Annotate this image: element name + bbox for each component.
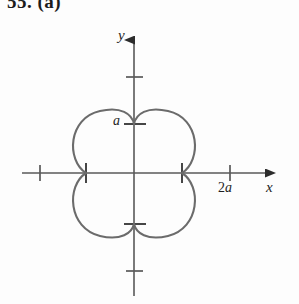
rose-curve-plot: [0, 0, 299, 304]
x-tick-label-2a-number: 2: [218, 180, 225, 195]
figure-container: 55. (a) y: [0, 0, 299, 304]
petal-lower-right: [134, 173, 195, 238]
y-axis-label: y: [118, 27, 125, 44]
petal-lower-left: [73, 173, 134, 238]
petal-upper-left: [73, 109, 134, 173]
x-axis-label: x: [266, 179, 273, 196]
petal-upper-right: [134, 109, 195, 173]
x-tick-label-2a-variable: a: [225, 180, 232, 195]
y-tick-label-a: a: [113, 113, 120, 129]
x-tick-label-2a: 2a: [218, 180, 232, 196]
